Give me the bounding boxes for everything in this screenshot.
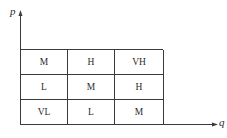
- matrix-grid: M H VH L M H VL L M: [20, 49, 163, 124]
- y-axis-label: p: [10, 6, 16, 17]
- matrix-cell: H: [68, 50, 115, 75]
- matrix-cell: H: [115, 75, 164, 100]
- matrix-cell: M: [115, 100, 164, 125]
- matrix-cell: M: [21, 50, 68, 75]
- matrix-cell: L: [21, 75, 68, 100]
- matrix-cell: M: [68, 75, 115, 100]
- matrix-cell: VH: [115, 50, 164, 75]
- x-axis-label: q: [219, 117, 225, 128]
- matrix-cell: VL: [21, 100, 68, 125]
- matrix-cell: L: [68, 100, 115, 125]
- x-axis-arrow-icon: [212, 123, 218, 127]
- y-axis-arrow-icon: [19, 10, 23, 16]
